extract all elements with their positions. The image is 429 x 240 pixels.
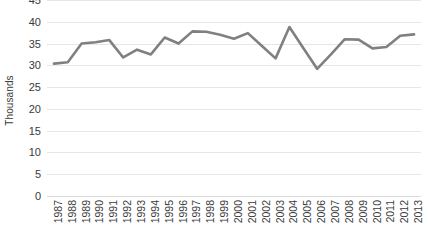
- x-tick-label: 1992: [122, 200, 133, 223]
- x-tick-label: 1994: [150, 200, 161, 223]
- y-tick-label: 25: [29, 82, 41, 93]
- y-tick-label: 40: [29, 16, 41, 27]
- x-tick-label: 1996: [178, 200, 189, 223]
- x-tick-label: 2000: [233, 200, 244, 223]
- y-tick-label: 20: [29, 103, 41, 114]
- x-tick-label: 1991: [108, 200, 119, 223]
- y-tick-label: 15: [29, 125, 41, 136]
- x-tick-label: 1987: [53, 200, 64, 223]
- x-tick-label: 2012: [399, 200, 410, 223]
- x-tick-label: 1999: [219, 200, 230, 223]
- x-tick-label: 1995: [164, 200, 175, 223]
- x-tick-label: 2011: [385, 200, 396, 223]
- x-tick-label: 2004: [288, 200, 299, 223]
- x-axis-tick-labels: 1987198819891990199119921993199419951996…: [47, 200, 421, 240]
- x-tick-label: 2008: [344, 200, 355, 223]
- y-tick-label: 5: [35, 169, 41, 180]
- series-polyline: [54, 27, 414, 69]
- x-tick-label: 2007: [330, 200, 341, 223]
- x-tick-label: 2002: [261, 200, 272, 223]
- y-tick-label: 0: [35, 191, 41, 202]
- x-tick-label: 1989: [81, 200, 92, 223]
- x-tick-label: 1997: [191, 200, 202, 223]
- x-tick-label: 2009: [358, 200, 369, 223]
- x-tick-label: 2010: [372, 200, 383, 223]
- y-tick-label: 10: [29, 147, 41, 158]
- y-tick-label: 35: [29, 38, 41, 49]
- x-tick-label: 1990: [94, 200, 105, 223]
- y-axis-title-label: Thousands: [4, 75, 15, 125]
- y-axis-title: Thousands: [0, 0, 18, 200]
- y-tick-label: 30: [29, 60, 41, 71]
- plot-area: [47, 0, 421, 200]
- x-tick-label: 2013: [413, 200, 424, 223]
- series-line: [47, 0, 421, 200]
- x-tick-label: 1993: [136, 200, 147, 223]
- line-chart: Thousands 051015202530354045 19871988198…: [0, 0, 429, 240]
- x-tick-label: 1988: [67, 200, 78, 223]
- x-tick-label: 2006: [316, 200, 327, 223]
- x-tick-label: 1998: [205, 200, 216, 223]
- y-tick-label: 45: [29, 0, 41, 6]
- x-tick-label: 2003: [275, 200, 286, 223]
- y-axis-tick-labels: 051015202530354045: [18, 0, 44, 200]
- x-tick-label: 2001: [247, 200, 258, 223]
- x-tick-label: 2005: [302, 200, 313, 223]
